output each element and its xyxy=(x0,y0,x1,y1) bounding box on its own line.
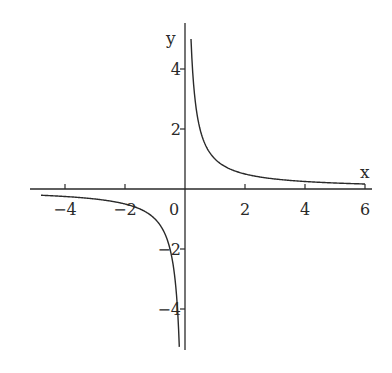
x-tick-label: 4 xyxy=(300,200,310,219)
x-tick-label: −4 xyxy=(53,200,77,219)
y-tick-label: 2 xyxy=(171,120,181,139)
y-axis-label: y xyxy=(165,28,176,48)
curve-right-branch xyxy=(191,39,365,184)
x-tick-label: 2 xyxy=(240,200,250,219)
curves xyxy=(41,39,365,347)
y-tick-label: −2 xyxy=(157,240,181,259)
x-tick-label: 6 xyxy=(360,200,370,219)
x-tick-label: 0 xyxy=(169,200,179,219)
function-plot: −4−20246−4−224 x y xyxy=(0,0,392,373)
x-axis-label: x xyxy=(360,162,370,182)
axes xyxy=(30,23,372,350)
y-tick-label: 4 xyxy=(171,60,181,79)
